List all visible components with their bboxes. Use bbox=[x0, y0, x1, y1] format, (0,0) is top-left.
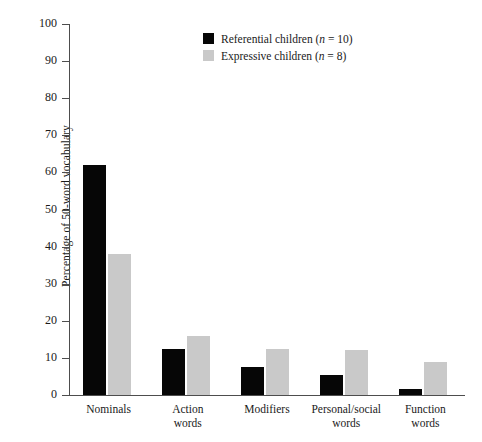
y-axis-tick: 40 bbox=[62, 247, 70, 248]
y-axis-tick-label: 10 bbox=[45, 350, 57, 365]
y-axis-tick-label: 40 bbox=[45, 239, 57, 254]
chart-legend: Referential children (n = 10)Expressive … bbox=[203, 31, 353, 65]
legend-label: Expressive children (n = 8) bbox=[221, 50, 346, 62]
y-axis-tick: 0 bbox=[62, 395, 70, 396]
y-axis-tick: 60 bbox=[62, 172, 70, 173]
y-axis-tick-label: 60 bbox=[45, 164, 57, 179]
legend-swatch-icon bbox=[203, 33, 214, 44]
y-axis-tick-label: 20 bbox=[45, 313, 57, 328]
bar-chart-figure: Percentage of 50-word vocabulary 0102030… bbox=[0, 0, 482, 442]
x-axis-category-label: Function words bbox=[386, 402, 465, 430]
x-axis-line bbox=[69, 395, 465, 396]
bar bbox=[320, 375, 343, 395]
x-axis-category-label: Nominals bbox=[69, 402, 148, 416]
y-axis-tick-label: 30 bbox=[45, 276, 57, 291]
x-axis-category-label: Personal/social words bbox=[307, 402, 386, 430]
bar bbox=[345, 350, 368, 395]
y-axis-tick: 80 bbox=[62, 98, 70, 99]
bar bbox=[187, 336, 210, 395]
y-axis-tick-label: 0 bbox=[51, 387, 57, 402]
bar bbox=[424, 362, 447, 395]
bar bbox=[83, 165, 106, 395]
y-axis-tick: 10 bbox=[62, 358, 70, 359]
bar bbox=[266, 349, 289, 395]
y-axis-tick: 90 bbox=[62, 61, 70, 62]
y-axis-tick: 70 bbox=[62, 135, 70, 136]
legend-swatch-icon bbox=[203, 50, 214, 61]
plot-area: 0102030405060708090100 NominalsAction wo… bbox=[69, 24, 465, 395]
bar bbox=[108, 254, 131, 395]
x-axis-category-label: Modifiers bbox=[227, 402, 306, 416]
y-axis-tick-label: 70 bbox=[45, 127, 57, 142]
y-axis-tick: 50 bbox=[62, 210, 70, 211]
y-axis-tick: 100 bbox=[62, 24, 70, 25]
bar bbox=[162, 349, 185, 395]
figure-caption bbox=[46, 434, 446, 442]
y-axis-tick-label: 90 bbox=[45, 53, 57, 68]
bar bbox=[399, 389, 422, 395]
y-axis-tick-label: 100 bbox=[39, 16, 57, 31]
legend-label: Referential children (n = 10) bbox=[221, 33, 353, 45]
y-axis-tick-label: 50 bbox=[45, 202, 57, 217]
y-axis-tick-label: 80 bbox=[45, 90, 57, 105]
y-axis-tick: 30 bbox=[62, 284, 70, 285]
x-axis-category-label: Action words bbox=[148, 402, 227, 430]
bar bbox=[241, 367, 264, 395]
legend-item: Referential children (n = 10) bbox=[203, 31, 353, 46]
legend-item: Expressive children (n = 8) bbox=[203, 48, 353, 63]
y-axis-tick: 20 bbox=[62, 321, 70, 322]
